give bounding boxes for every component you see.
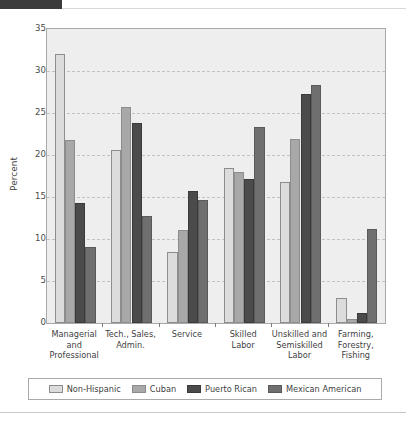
chart-legend: Non-HispanicCubanPuerto RicanMexican Ame… (28, 378, 382, 400)
y-tick-label: 25 (16, 107, 46, 117)
bar (121, 107, 131, 323)
x-category-label: Tech., Sales,Admin. (98, 329, 162, 350)
x-category-line: Admin. (98, 340, 162, 351)
x-category-line: Forestry, (324, 340, 388, 351)
x-category-line: Unskilled and (267, 329, 331, 340)
bar (198, 200, 208, 323)
x-category-line: Farming, (324, 329, 388, 340)
legend-item[interactable]: Mexican American (268, 384, 361, 394)
y-tick-label: 10 (16, 233, 46, 243)
bar (224, 168, 234, 323)
bar (132, 123, 142, 323)
x-tick-mark (271, 323, 272, 327)
x-category-label: Farming,Forestry,Fishing (324, 329, 388, 361)
bar (75, 203, 85, 323)
bar (244, 179, 254, 323)
x-category-line: Labor (211, 340, 275, 351)
y-tick-label: 0 (16, 317, 46, 327)
bar (167, 252, 177, 323)
grid-line (47, 113, 385, 114)
x-category-line: Managerial (42, 329, 106, 340)
x-category-label: Service (155, 329, 219, 340)
bar (367, 229, 377, 323)
bar (301, 94, 311, 323)
x-category-line: Service (155, 329, 219, 340)
x-category-label: ManagerialandProfessional (42, 329, 106, 361)
legend-item[interactable]: Non-Hispanic (49, 384, 121, 394)
x-category-line: Labor (267, 350, 331, 361)
x-category-label: Unskilled andSemiskilledLabor (267, 329, 331, 361)
bar (142, 216, 152, 323)
bar (254, 127, 264, 323)
x-category-line: and (42, 340, 106, 351)
x-category-line: Tech., Sales, (98, 329, 162, 340)
bar (178, 230, 188, 323)
bar (55, 54, 65, 323)
grid-line (47, 281, 385, 282)
legend-label: Mexican American (286, 384, 361, 394)
x-tick-mark (102, 323, 103, 327)
plot-area (46, 28, 386, 324)
bar-chart-figure: Percent 05101520253035 Non-HispanicCuban… (0, 9, 406, 421)
y-tick-label: 35 (16, 23, 46, 33)
legend-swatch (49, 385, 63, 393)
footer-divider (0, 412, 406, 413)
x-axis-ticks (46, 323, 386, 328)
header-strip (0, 0, 406, 9)
legend-swatch (268, 385, 282, 393)
grid-line (47, 197, 385, 198)
x-category-label: SkilledLabor (211, 329, 275, 350)
x-tick-mark (328, 323, 329, 327)
bar (65, 140, 75, 323)
legend-swatch (187, 385, 201, 393)
header-tab-block (0, 0, 62, 9)
legend-item[interactable]: Cuban (132, 384, 176, 394)
x-tick-mark (215, 323, 216, 327)
legend-item[interactable]: Puerto Rican (187, 384, 257, 394)
y-tick-label: 5 (16, 275, 46, 285)
bar (111, 150, 121, 323)
grid-line (47, 155, 385, 156)
bar (357, 313, 367, 323)
grid-line (47, 71, 385, 72)
x-category-line: Semiskilled (267, 340, 331, 351)
legend-label: Puerto Rican (205, 384, 257, 394)
y-tick-label: 15 (16, 191, 46, 201)
y-tick-label: 30 (16, 65, 46, 75)
legend-swatch (132, 385, 146, 393)
bar (280, 182, 290, 323)
bar (311, 85, 321, 323)
bar (188, 191, 198, 323)
bar (336, 298, 346, 323)
x-category-line: Fishing (324, 350, 388, 361)
legend-label: Non-Hispanic (67, 384, 121, 394)
y-tick-label: 20 (16, 149, 46, 159)
y-axis-ticks: 05101520253035 (6, 28, 46, 322)
bar (290, 139, 300, 323)
x-tick-mark (159, 323, 160, 327)
legend-label: Cuban (150, 384, 176, 394)
x-category-line: Skilled (211, 329, 275, 340)
grid-line (47, 239, 385, 240)
bar (234, 172, 244, 323)
bar (85, 247, 95, 323)
x-category-line: Professional (42, 350, 106, 361)
